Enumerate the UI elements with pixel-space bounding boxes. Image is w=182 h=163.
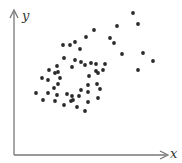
data-point [56, 70, 60, 74]
data-point [55, 93, 59, 97]
data-point [62, 103, 66, 107]
data-point [89, 61, 93, 65]
data-point [58, 76, 62, 80]
data-point [77, 94, 81, 98]
data-point [46, 91, 50, 95]
data-point [70, 94, 74, 98]
data-point [94, 62, 98, 66]
data-point [86, 100, 90, 104]
y-axis-label: y [21, 8, 30, 23]
data-point [115, 24, 119, 28]
data-point [40, 76, 44, 80]
data-point [65, 92, 69, 96]
data-point [96, 71, 100, 75]
x-axis-label: x [170, 146, 178, 161]
data-point [86, 83, 90, 87]
data-point [98, 87, 102, 91]
data-point [71, 98, 75, 102]
data-point [56, 82, 60, 86]
data-point [70, 65, 74, 69]
data-point [41, 98, 45, 102]
data-point [86, 90, 90, 94]
data-point [83, 109, 87, 113]
data-point [96, 96, 100, 100]
data-point [73, 40, 77, 44]
data-point [131, 11, 135, 15]
data-point [55, 64, 59, 68]
data-point [108, 36, 112, 40]
data-point [52, 86, 56, 90]
data-point [92, 28, 96, 32]
data-point [62, 56, 66, 60]
data-points [34, 11, 155, 113]
data-point [136, 68, 140, 72]
data-point [136, 22, 140, 26]
data-point [79, 88, 83, 92]
data-point [120, 52, 124, 56]
data-point [112, 41, 116, 45]
data-point [47, 68, 51, 72]
data-point [73, 58, 77, 62]
data-point [75, 105, 79, 109]
data-point [87, 74, 91, 78]
data-point [61, 43, 65, 47]
data-point [34, 91, 38, 95]
data-point [46, 78, 50, 82]
data-point [78, 47, 82, 51]
data-point [53, 99, 57, 103]
data-point [68, 43, 72, 47]
data-point [83, 63, 87, 67]
data-point [141, 51, 145, 55]
scatter-chart: y x [0, 0, 182, 163]
data-point [95, 82, 99, 86]
data-point [101, 68, 105, 72]
data-point [79, 60, 83, 64]
data-point [84, 35, 88, 39]
data-point [103, 62, 107, 66]
data-point [151, 59, 155, 63]
